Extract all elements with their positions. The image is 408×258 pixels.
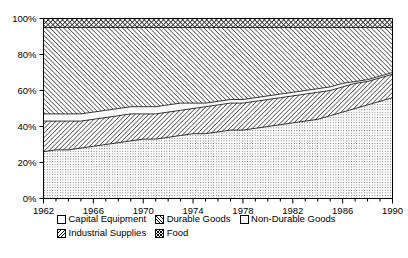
stacked-area-chart: 0%20%40%60%80%100% 196219661970197419781… — [0, 0, 408, 258]
legend-item-industrial-supplies[interactable]: Industrial Supplies — [57, 226, 146, 240]
y-tick-label: 60% — [17, 85, 37, 96]
legend-item-durable-goods[interactable]: Durable Goods — [155, 212, 230, 226]
area-band-food — [44, 19, 393, 28]
legend-row: Industrial SuppliesFood — [57, 226, 397, 240]
legend-item-label: Food — [167, 226, 189, 240]
area-bands — [44, 19, 393, 199]
y-axis-ticks — [40, 19, 44, 199]
y-tick-label: 40% — [17, 121, 37, 132]
x-axis-ticks — [44, 199, 393, 204]
y-axis-tick-labels: 0%20%40%60%80%100% — [12, 13, 37, 204]
legend-swatch-icon — [155, 215, 164, 224]
legend-swatch-icon — [240, 215, 249, 224]
legend-item-label: Non-Durable Goods — [251, 212, 336, 226]
y-tick-label: 20% — [17, 157, 37, 168]
x-tick-label: 1962 — [33, 205, 54, 216]
legend-item-food[interactable]: Food — [155, 226, 188, 240]
legend-swatch-icon — [57, 229, 66, 238]
chart-legend: Capital EquipmentDurable GoodsNon-Durabl… — [57, 212, 397, 240]
legend-swatch-icon — [57, 215, 66, 224]
legend-item-capital-equipment[interactable]: Capital Equipment — [57, 212, 146, 226]
legend-item-label: Industrial Supplies — [69, 226, 147, 240]
legend-row: Capital EquipmentDurable GoodsNon-Durabl… — [57, 212, 397, 226]
y-tick-label: 100% — [12, 13, 37, 24]
y-tick-label: 0% — [23, 193, 37, 204]
legend-item-label: Capital Equipment — [69, 212, 147, 226]
legend-item-non-durable-goods[interactable]: Non-Durable Goods — [240, 212, 336, 226]
legend-item-label: Durable Goods — [167, 212, 231, 226]
y-tick-label: 80% — [17, 49, 37, 60]
legend-swatch-icon — [155, 229, 164, 238]
